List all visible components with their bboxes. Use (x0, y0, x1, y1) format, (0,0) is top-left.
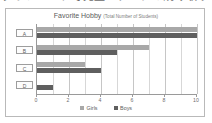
plot-area (36, 24, 196, 94)
bars-layer (37, 24, 196, 94)
gridline-major (197, 24, 198, 94)
bar-d-boys (37, 85, 53, 90)
legend-label-girls: Girls (86, 105, 97, 111)
legend-item-boys: Boys (114, 105, 132, 111)
legend-swatch-girls-icon (80, 106, 84, 110)
bar-group-a (37, 24, 196, 42)
page-headline-strip: グラフ これで完璧！データの読み取り・グラフ作成 (0, 0, 212, 7)
bar-c-boys (37, 68, 101, 73)
bar-a-boys (37, 33, 197, 38)
x-tick-label: 10 (193, 97, 199, 103)
bar-b-boys (37, 50, 117, 55)
legend-item-girls: Girls (80, 105, 98, 111)
bar-group-c (37, 59, 196, 77)
chart-title: Favorite Hobby (Total Number of Students… (6, 12, 206, 21)
bar-group-b (37, 42, 196, 60)
x-axis (36, 94, 196, 95)
category-label-a: A (16, 29, 33, 37)
chart-title-main: Favorite Hobby (54, 12, 101, 19)
x-tick-label: 0 (35, 97, 38, 103)
chart-subtitle: (Total Number of Students) (103, 14, 158, 19)
x-tick-label: 6 (131, 97, 134, 103)
x-tick-label: 4 (99, 97, 102, 103)
page-headline-text: グラフ これで完璧！データの読み取り・グラフ作成 (2, 0, 212, 2)
x-tick-label: 2 (67, 97, 70, 103)
legend-label-boys: Boys (120, 105, 132, 111)
x-tick-label: 8 (163, 97, 166, 103)
category-label-d: D (16, 81, 33, 89)
bar-c-girls (37, 62, 85, 67)
bar-a-girls (37, 27, 197, 32)
category-label-b: B (16, 46, 33, 54)
legend-swatch-boys-icon (114, 106, 118, 110)
bar-b-girls (37, 45, 149, 50)
chart-card: Favorite Hobby (Total Number of Students… (5, 8, 205, 117)
bar-group-d (37, 77, 196, 95)
category-label-c: C (16, 64, 33, 72)
chart-legend: Girls Boys (6, 105, 206, 111)
